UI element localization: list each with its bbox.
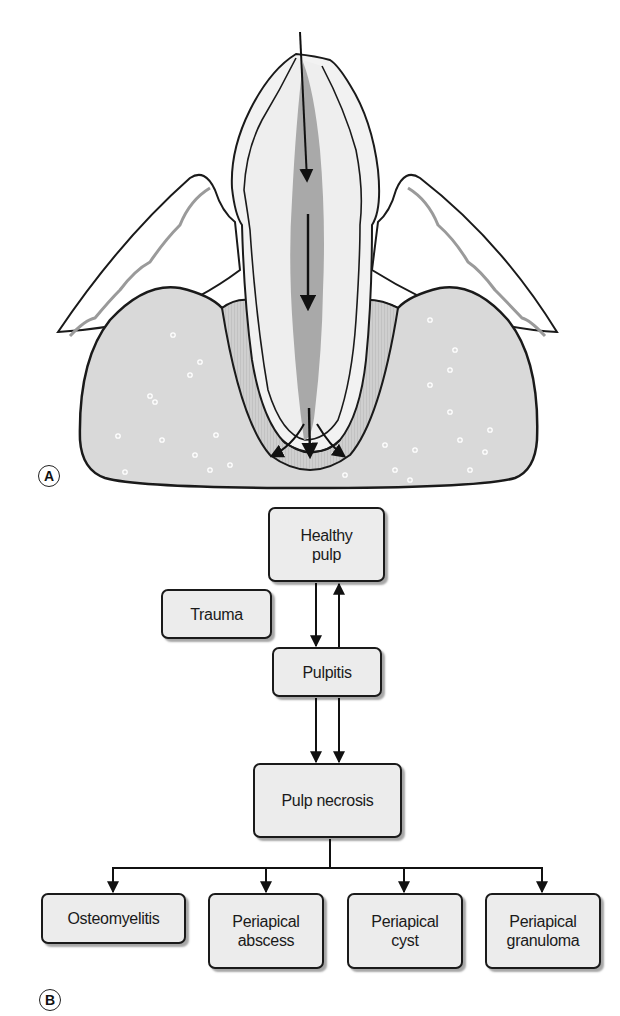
infection-arrow-3	[309, 408, 310, 456]
node-periapical-cyst-label: Periapical cyst	[371, 912, 438, 950]
node-pulp-necrosis: Pulp necrosis	[253, 763, 402, 838]
tooth-illustration	[0, 0, 620, 500]
node-trauma: Trauma	[161, 589, 272, 639]
node-periapical-granuloma: Periapical granuloma	[485, 893, 601, 969]
node-pulpitis: Pulpitis	[272, 647, 382, 697]
panel-label-a: A	[38, 465, 60, 487]
panel-label-b: B	[39, 989, 61, 1011]
node-healthy-pulp: Healthy pulp	[268, 507, 385, 582]
panel-label-a-text: A	[44, 468, 54, 484]
node-periapical-abscess: Periapical abscess	[208, 893, 324, 969]
node-periapical-abscess-label: Periapical abscess	[232, 912, 299, 950]
node-trauma-label: Trauma	[190, 605, 243, 624]
node-osteomyelitis: Osteomyelitis	[41, 893, 186, 944]
node-periapical-cyst: Periapical cyst	[347, 893, 463, 969]
node-pulp-necrosis-label: Pulp necrosis	[281, 791, 373, 810]
panel-label-b-text: B	[45, 992, 55, 1008]
node-osteomyelitis-label: Osteomyelitis	[67, 909, 159, 928]
node-periapical-granuloma-label: Periapical granuloma	[507, 912, 580, 950]
node-healthy-pulp-label: Healthy pulp	[300, 526, 352, 564]
node-pulpitis-label: Pulpitis	[302, 663, 351, 682]
